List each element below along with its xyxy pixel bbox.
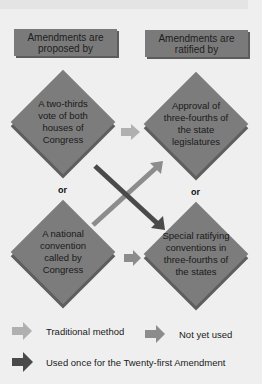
arrow-traditional-top [121,124,140,140]
arrow-light-icon [12,322,34,340]
legend-traditional-label: Traditional method [46,326,124,337]
legend-traditional: Traditional method [12,322,124,340]
legend-used-once-label: Used once for the Twenty-first Amendment [46,357,225,368]
arrow-dark-icon [12,352,34,372]
arrow-not-used-bottom [124,250,141,266]
legend-not-used: Not yet used [145,325,232,343]
legend-not-used-label: Not yet used [179,329,232,340]
arrow-used-once-diagonal [95,166,165,230]
legend-used-once: Used once for the Twenty-first Amendment [12,352,225,372]
arrow-medium-icon [145,325,167,343]
